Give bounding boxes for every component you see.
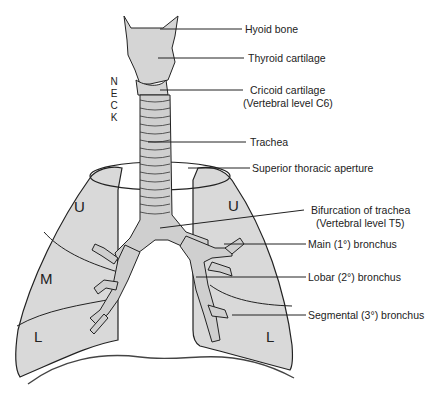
left-lung [193, 167, 292, 370]
label-bifurcation-of-trachea: Bifurcation of trachea [311, 204, 410, 216]
lobe-right-lower: L [34, 328, 42, 345]
label-main-bronchus: Main (1°) bronchus [308, 238, 397, 250]
label-cricoid-level: (Vertebral level C6) [243, 97, 333, 109]
label-superior-thoracic-aperture: Superior thoracic aperture [252, 162, 373, 174]
neck-region-label: N E C K [108, 76, 120, 124]
lobe-right-upper: U [74, 198, 85, 215]
label-segmental-bronchus: Segmental (3°) bronchus [308, 309, 424, 321]
larynx [124, 16, 178, 95]
respiratory-tree-diagram [0, 0, 441, 400]
label-hyoid-bone: Hyoid bone [245, 23, 298, 35]
lobe-left-upper: U [228, 197, 239, 214]
label-cricoid-cartilage: Cricoid cartilage [250, 84, 325, 96]
lobe-left-lower: L [266, 328, 274, 345]
neck-letter: C [108, 100, 120, 112]
neck-letter: N [108, 76, 120, 88]
label-bifurcation-level: (Vertebral level T5) [316, 217, 405, 229]
neck-letter: K [108, 112, 120, 124]
label-lobar-bronchus: Lobar (2°) bronchus [308, 271, 401, 283]
neck-letter: E [108, 88, 120, 100]
label-thyroid-cartilage: Thyroid cartilage [248, 52, 326, 64]
lobe-right-middle: M [40, 270, 53, 287]
label-trachea: Trachea [250, 136, 288, 148]
right-lung [16, 167, 122, 377]
